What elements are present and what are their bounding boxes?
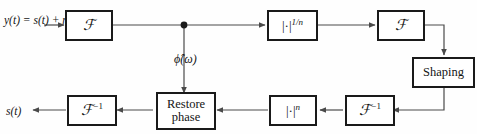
magnitude-power-label: |·|n (286, 103, 300, 118)
fourier-transform-label: ℱ (83, 18, 95, 34)
magnitude-power-block[interactable]: |·|n (269, 95, 317, 126)
inverse-fourier-label-2: ℱ−1 (81, 102, 103, 119)
magnitude-root-block[interactable]: |·|1/n (267, 10, 318, 41)
block-diagram: y(t) = s(t) + n(t) s(t) ϕ̂(ω) ℱ |·|1/n ℱ… (0, 0, 477, 134)
fourier-transform-label-2: ℱ (395, 18, 407, 34)
inverse-fourier-label: ℱ−1 (359, 102, 381, 119)
inverse-fourier-block-2[interactable]: ℱ−1 (67, 95, 117, 126)
magnitude-root-label: |·|1/n (282, 18, 303, 33)
output-signal-label: s(t) (6, 105, 21, 117)
phase-branch-label: ϕ̂(ω) (174, 52, 197, 67)
wire-shaping-to-invfourier1 (393, 88, 444, 110)
shaping-block[interactable]: Shaping (412, 57, 475, 88)
fourier-transform-block[interactable]: ℱ (65, 10, 113, 41)
wire-fourier2-to-shaping (425, 25, 444, 55)
restore-phase-block[interactable]: Restore phase (156, 92, 216, 130)
fourier-transform-block-2[interactable]: ℱ (377, 10, 425, 41)
branch-junction-dot (181, 22, 188, 29)
shaping-label: Shaping (423, 66, 464, 79)
restore-phase-label: Restore phase (167, 98, 205, 124)
inverse-fourier-block[interactable]: ℱ−1 (345, 95, 395, 126)
